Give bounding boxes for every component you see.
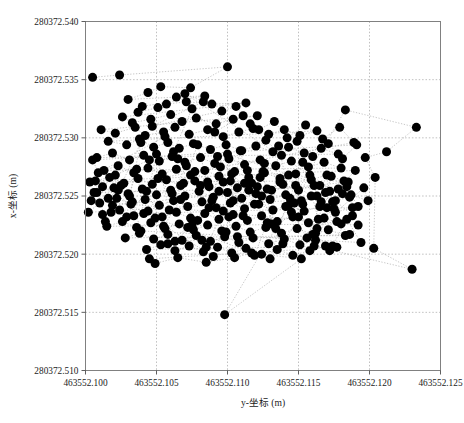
data-point	[293, 137, 302, 146]
data-point	[341, 105, 350, 114]
data-point	[280, 125, 289, 134]
data-point	[257, 211, 266, 220]
data-point	[111, 129, 120, 138]
data-point	[351, 166, 360, 175]
data-point	[203, 178, 212, 187]
data-point	[364, 196, 373, 205]
data-point	[303, 233, 312, 242]
data-point	[148, 122, 157, 131]
y-tick-label: 280372.530	[34, 133, 79, 143]
data-point	[216, 162, 225, 171]
data-point	[203, 221, 212, 230]
data-point	[170, 123, 179, 132]
data-point	[331, 196, 340, 205]
data-point	[321, 188, 330, 197]
data-point	[151, 214, 160, 223]
data-point	[293, 224, 302, 233]
data-point	[143, 164, 152, 173]
data-point	[278, 239, 287, 248]
data-point	[213, 152, 222, 161]
data-point	[175, 219, 184, 228]
data-point	[185, 242, 194, 251]
chart-canvas: 463552.100463552.105463552.110463552.115…	[0, 0, 464, 423]
data-point	[338, 154, 347, 163]
data-point	[87, 196, 96, 205]
data-point	[246, 119, 255, 128]
data-point	[260, 159, 269, 168]
data-point	[219, 132, 228, 141]
data-point	[219, 207, 228, 216]
data-point	[249, 233, 258, 242]
data-point	[155, 201, 164, 210]
scatter-plot-figure: 463552.100463552.105463552.110463552.115…	[0, 0, 464, 423]
data-point	[254, 125, 263, 134]
data-point	[115, 71, 124, 80]
data-point	[347, 190, 356, 199]
data-point	[349, 138, 358, 147]
data-point	[122, 140, 131, 149]
data-point	[408, 265, 417, 274]
data-point	[206, 145, 215, 154]
data-point	[412, 123, 421, 132]
data-point	[315, 181, 324, 190]
data-point	[322, 203, 331, 212]
data-point	[274, 141, 283, 150]
data-point	[257, 192, 266, 201]
data-point	[382, 147, 391, 156]
data-point	[223, 188, 232, 197]
data-point	[243, 166, 252, 175]
x-axis-title: y-坐标 (m)	[241, 397, 285, 409]
data-point	[237, 194, 246, 203]
data-point	[233, 232, 242, 241]
data-point	[199, 97, 208, 106]
data-point	[159, 222, 168, 231]
data-point	[193, 140, 202, 149]
data-point	[179, 179, 188, 188]
data-point	[217, 107, 226, 116]
y-tick-label: 280372.510	[34, 366, 79, 376]
data-point	[266, 254, 275, 263]
data-point	[196, 153, 205, 162]
data-point	[250, 200, 259, 209]
data-point	[335, 123, 344, 132]
x-tick-label: 463552.105	[134, 378, 179, 388]
x-tick-label: 463552.115	[277, 378, 321, 388]
data-point	[239, 211, 248, 220]
data-point	[145, 155, 154, 164]
data-point	[359, 183, 368, 192]
data-point	[241, 98, 250, 107]
data-point	[230, 253, 239, 262]
data-point	[276, 178, 285, 187]
data-point	[250, 251, 259, 260]
data-point	[369, 244, 378, 253]
data-point	[337, 164, 346, 173]
data-point	[153, 103, 162, 112]
data-point	[305, 171, 314, 180]
data-point	[223, 150, 232, 159]
data-point	[183, 202, 192, 211]
data-point	[132, 165, 141, 174]
data-point	[125, 155, 134, 164]
data-point	[172, 165, 181, 174]
data-point	[295, 240, 304, 249]
data-point	[314, 215, 323, 224]
data-point	[134, 108, 143, 117]
data-point	[236, 146, 245, 155]
data-point	[209, 252, 218, 261]
data-point	[287, 157, 296, 166]
data-point	[281, 202, 290, 211]
data-point	[92, 188, 101, 197]
data-point	[88, 155, 97, 164]
data-point	[320, 158, 329, 167]
data-point	[197, 197, 206, 206]
data-point	[190, 167, 199, 176]
data-point	[139, 209, 148, 218]
data-point	[270, 117, 279, 126]
data-point	[324, 225, 333, 234]
data-point	[192, 114, 201, 123]
data-point	[156, 82, 165, 91]
data-point	[345, 230, 354, 239]
data-point	[232, 102, 241, 111]
data-point	[344, 178, 353, 187]
data-point	[348, 211, 357, 220]
